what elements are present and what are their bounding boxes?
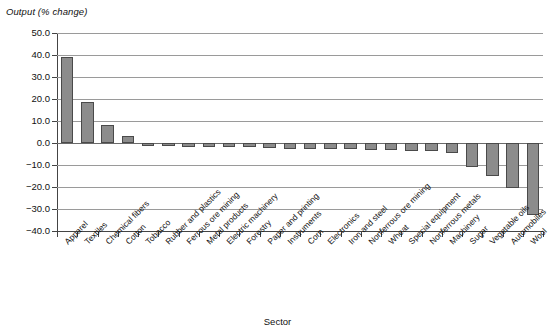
bar (365, 143, 378, 150)
y-tick-mark (52, 99, 57, 100)
y-tick-label: 10.0 (0, 116, 50, 126)
y-tick-label: −30.0 (0, 204, 50, 214)
y-tick-label: 50.0 (0, 28, 50, 38)
bar (203, 143, 216, 147)
y-tick-label: −10.0 (0, 160, 50, 170)
bar (324, 143, 337, 149)
bar (101, 125, 114, 143)
y-tick-label: 0.0 (0, 138, 50, 148)
x-axis-title: Sector (0, 316, 555, 327)
bar (223, 143, 236, 147)
y-axis-title: Output (% change) (6, 6, 87, 17)
bar (142, 143, 155, 146)
bar (425, 143, 438, 151)
bar (466, 143, 479, 167)
bar (446, 143, 459, 153)
x-tick-mark (57, 232, 58, 237)
bar (182, 143, 195, 147)
gridline (57, 121, 543, 122)
bar (284, 143, 297, 149)
y-tick-mark (52, 77, 57, 78)
bar (506, 143, 519, 188)
y-tick-mark (52, 121, 57, 122)
bar (486, 143, 499, 176)
bar (243, 143, 256, 147)
gridline (57, 187, 543, 188)
y-tick-label: 20.0 (0, 94, 50, 104)
bar-chart: Output (% change) 50.040.030.020.010.00.… (0, 0, 555, 335)
y-tick-label: 40.0 (0, 50, 50, 60)
gridline (57, 33, 543, 34)
y-tick-mark (52, 187, 57, 188)
bar (162, 143, 175, 146)
bar (122, 136, 135, 143)
y-tick-label: −40.0 (0, 226, 50, 236)
gridline (57, 55, 543, 56)
y-tick-mark (52, 55, 57, 56)
y-tick-mark (52, 33, 57, 34)
gridline (57, 77, 543, 78)
y-tick-label: −20.0 (0, 182, 50, 192)
y-tick-mark (52, 165, 57, 166)
bar (344, 143, 357, 149)
bar (263, 143, 276, 148)
bar (61, 57, 74, 143)
bar (405, 143, 418, 151)
bar (385, 143, 398, 150)
bar (527, 143, 540, 215)
y-tick-mark (52, 143, 57, 144)
bar (304, 143, 317, 149)
gridline (57, 99, 543, 100)
y-tick-label: 30.0 (0, 72, 50, 82)
bar (81, 102, 94, 143)
y-tick-mark (52, 209, 57, 210)
